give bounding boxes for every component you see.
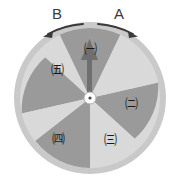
spinner-diagram: B A ㈠ ㈡ ㈢ ㈣ ㈤ xyxy=(0,0,179,192)
direction-label-a: A xyxy=(114,6,124,21)
hub-dot xyxy=(88,96,91,99)
sector-label-giyeok: ㈠ xyxy=(84,42,97,55)
sector-label-mieum: ㈤ xyxy=(51,63,64,76)
direction-label-b: B xyxy=(52,6,62,21)
sector-label-nieun: ㈡ xyxy=(125,97,138,110)
wheel-graphic xyxy=(0,0,179,192)
sector-label-rieul: ㈣ xyxy=(52,132,65,145)
sector-label-digeut: ㈢ xyxy=(104,133,117,146)
